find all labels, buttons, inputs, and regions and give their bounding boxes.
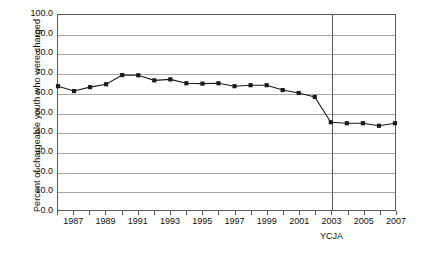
x-tick bbox=[186, 211, 187, 215]
data-point-marker bbox=[120, 73, 124, 77]
x-tick bbox=[122, 211, 123, 215]
y-tick-label: 90.0 bbox=[1, 29, 53, 38]
x-tick bbox=[396, 211, 397, 215]
data-point-marker bbox=[345, 121, 349, 125]
x-tick bbox=[283, 211, 284, 215]
x-tick bbox=[170, 211, 171, 215]
chart-container: Percent of chargeable youth who were cha… bbox=[0, 0, 424, 254]
data-point-marker bbox=[248, 83, 252, 87]
x-tick bbox=[380, 211, 381, 215]
data-point-marker bbox=[377, 124, 381, 128]
x-tick bbox=[315, 211, 316, 215]
x-tick bbox=[267, 211, 268, 215]
x-tick bbox=[57, 211, 58, 215]
y-tick-label: 100.0 bbox=[1, 9, 53, 18]
data-point-marker bbox=[329, 120, 333, 124]
data-point-marker bbox=[88, 85, 92, 89]
data-point-marker bbox=[281, 88, 285, 92]
y-tick-label: 70.0 bbox=[1, 68, 53, 77]
y-tick-label: 20.0 bbox=[1, 167, 53, 176]
ycja-annotation-label: YCJA bbox=[301, 231, 361, 241]
y-tick-label: 10.0 bbox=[1, 186, 53, 195]
y-tick-label: 0.0 bbox=[1, 206, 53, 215]
x-tick bbox=[105, 211, 106, 215]
data-point-marker bbox=[232, 84, 236, 88]
series-markers bbox=[56, 73, 397, 128]
y-tick-label: 30.0 bbox=[1, 147, 53, 156]
x-tick bbox=[348, 211, 349, 215]
y-tick-label: 80.0 bbox=[1, 48, 53, 57]
data-point-marker bbox=[361, 121, 365, 125]
data-point-marker bbox=[216, 81, 220, 85]
series-line bbox=[58, 75, 395, 126]
x-tick bbox=[89, 211, 90, 215]
x-tick-label: 2007 bbox=[376, 216, 416, 226]
data-point-marker bbox=[265, 83, 269, 87]
data-point-marker bbox=[56, 84, 60, 88]
y-tick-label: 60.0 bbox=[1, 88, 53, 97]
x-tick bbox=[154, 211, 155, 215]
y-tick-label: 40.0 bbox=[1, 127, 53, 136]
x-tick bbox=[138, 211, 139, 215]
x-axis-tick-labels: 1987198919911993199519971999200120032005… bbox=[0, 216, 424, 230]
plot-area bbox=[57, 14, 396, 211]
x-tick bbox=[202, 211, 203, 215]
x-tick bbox=[364, 211, 365, 215]
data-point-marker bbox=[104, 82, 108, 86]
data-point-marker bbox=[136, 73, 140, 77]
data-series bbox=[58, 15, 395, 210]
data-point-marker bbox=[184, 81, 188, 85]
data-point-marker bbox=[393, 121, 397, 125]
y-tick-label: 50.0 bbox=[1, 108, 53, 117]
data-point-marker bbox=[72, 89, 76, 93]
x-tick bbox=[331, 211, 332, 215]
x-tick bbox=[235, 211, 236, 215]
x-tick bbox=[73, 211, 74, 215]
data-point-marker bbox=[168, 77, 172, 81]
data-point-marker bbox=[200, 82, 204, 86]
data-point-marker bbox=[313, 95, 317, 99]
x-tick bbox=[218, 211, 219, 215]
data-point-marker bbox=[152, 78, 156, 82]
x-tick bbox=[251, 211, 252, 215]
data-point-marker bbox=[297, 91, 301, 95]
x-tick bbox=[299, 211, 300, 215]
